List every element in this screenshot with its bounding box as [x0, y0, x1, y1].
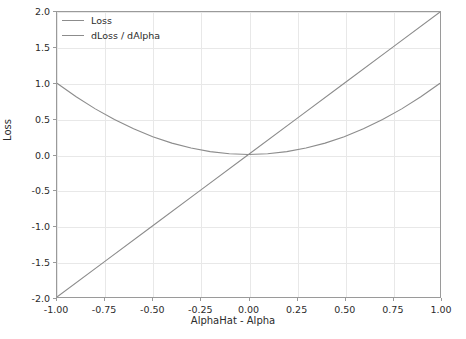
y-tick-label: -1.0	[6, 221, 50, 232]
x-tick-mark	[297, 298, 298, 301]
x-tick-label: 0.75	[382, 304, 403, 315]
plot-area	[56, 11, 441, 298]
y-tick-label: -2.0	[6, 293, 50, 304]
series-line-loss	[57, 83, 440, 154]
x-tick-mark	[200, 298, 201, 301]
x-axis-label: AlphaHat - Alpha	[0, 315, 466, 326]
y-tick-label: 1.0	[6, 77, 50, 88]
x-tick-label: -1.00	[44, 304, 69, 315]
x-tick-mark	[152, 298, 153, 301]
y-tick-label: 2.0	[6, 6, 50, 17]
y-tick-mark	[53, 119, 56, 120]
legend-label: dLoss / dAlpha	[91, 30, 160, 41]
y-tick-mark	[53, 226, 56, 227]
figure: -1.00-0.75-0.50-0.250.000.250.500.751.00…	[0, 0, 466, 339]
x-tick-mark	[345, 298, 346, 301]
y-tick-mark	[53, 47, 56, 48]
curves-layer	[57, 12, 440, 297]
y-tick-mark	[53, 190, 56, 191]
y-tick-label: 0.0	[6, 149, 50, 160]
legend-label: Loss	[91, 15, 112, 26]
y-tick-label: -0.5	[6, 185, 50, 196]
y-tick-mark	[53, 83, 56, 84]
x-tick-mark	[393, 298, 394, 301]
x-tick-label: 1.00	[430, 304, 451, 315]
x-tick-label: 0.25	[286, 304, 307, 315]
x-tick-label: -0.75	[92, 304, 117, 315]
y-tick-mark	[53, 155, 56, 156]
x-tick-label: -0.50	[140, 304, 165, 315]
y-tick-label: 1.5	[6, 41, 50, 52]
legend: Loss dLoss / dAlpha	[62, 15, 160, 41]
x-tick-label: 0.50	[334, 304, 355, 315]
y-tick-mark	[53, 262, 56, 263]
y-tick-mark	[53, 298, 56, 299]
x-tick-mark	[249, 298, 250, 301]
x-tick-label: -0.25	[188, 304, 213, 315]
x-tick-label: 0.00	[238, 304, 259, 315]
legend-handle-icon	[62, 35, 84, 36]
x-tick-mark	[104, 298, 105, 301]
y-axis-label: Loss	[2, 119, 13, 141]
x-tick-mark	[56, 298, 57, 301]
y-tick-mark	[53, 11, 56, 12]
legend-handle-icon	[62, 20, 84, 21]
legend-item-dloss-dalpha: dLoss / dAlpha	[62, 30, 160, 41]
series-line-dloss-dalpha	[57, 12, 440, 297]
legend-item-loss: Loss	[62, 15, 160, 26]
x-tick-mark	[441, 298, 442, 301]
y-tick-label: -1.5	[6, 257, 50, 268]
